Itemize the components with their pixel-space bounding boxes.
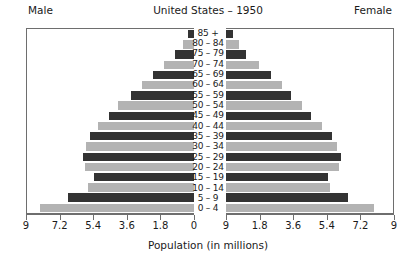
age-group-label: 60 – 64 [192, 80, 224, 89]
age-group-slot: 50 – 54 [194, 100, 222, 110]
age-group-slot: 80 – 84 [194, 38, 222, 48]
male-bar [83, 153, 194, 161]
male-x-tick-label: 9 [23, 220, 29, 232]
male-bar [142, 81, 194, 89]
male-bar-row [27, 70, 194, 80]
age-group-label: 10 – 14 [192, 184, 224, 193]
female-bar [226, 71, 271, 79]
female-bar [226, 183, 330, 191]
male-bar-row [27, 182, 194, 192]
male-bar [85, 163, 194, 171]
age-group-slot: 65 – 69 [194, 69, 222, 79]
age-group-slot: 85 + [194, 28, 222, 38]
female-bar [226, 153, 341, 161]
female-x-tick-label: 7.2 [352, 220, 368, 232]
female-bar-row [226, 141, 393, 151]
age-group-label: 30 – 34 [192, 142, 224, 151]
age-group-label: 35 – 39 [192, 132, 224, 141]
female-x-tick-label: 5.4 [319, 220, 335, 232]
age-group-label: 15 – 19 [192, 173, 224, 182]
age-group-axis: 85 +80 – 8475 – 7970 – 7465 – 6960 – 645… [194, 28, 222, 214]
female-bar-row [226, 101, 393, 111]
male-x-tick-label: 7.2 [52, 220, 68, 232]
female-bar-row [226, 70, 393, 80]
male-x-tick-label: 1.8 [152, 220, 168, 232]
male-bar [153, 71, 194, 79]
male-bar-row [27, 80, 194, 90]
female-bar-row [226, 29, 393, 39]
female-bar [226, 81, 282, 89]
age-group-slot: 35 – 39 [194, 131, 222, 141]
female-bar [226, 50, 246, 58]
age-group-slot: 55 – 59 [194, 90, 222, 100]
female-bar [226, 101, 302, 109]
female-bar [226, 193, 348, 201]
female-bar-row [226, 193, 393, 203]
female-plot-area [226, 28, 394, 214]
male-bar-row [27, 152, 194, 162]
age-group-label: 0 – 4 [198, 204, 219, 213]
female-bar-row [226, 111, 393, 121]
male-bar-row [27, 101, 194, 111]
female-x-tick-label: 1.8 [252, 220, 268, 232]
male-bar [109, 112, 194, 120]
male-bar-row [27, 203, 194, 213]
female-bar [226, 112, 311, 120]
female-bar-row [226, 80, 393, 90]
age-group-label: 20 – 24 [192, 163, 224, 172]
age-group-slot: 20 – 24 [194, 162, 222, 172]
male-bar [164, 61, 194, 69]
male-bar-row [27, 49, 194, 59]
female-x-tick-label: 9 [223, 220, 229, 232]
age-group-slot: 60 – 64 [194, 80, 222, 90]
age-group-slot: 40 – 44 [194, 121, 222, 131]
female-bar-row [226, 131, 393, 141]
male-bar [98, 122, 194, 130]
age-group-slot: 0 – 4 [194, 204, 222, 214]
age-group-slot: 10 – 14 [194, 183, 222, 193]
female-x-tick-labels: 91.83.65.47.29 [226, 220, 394, 234]
female-x-tick-label: 9 [391, 220, 397, 232]
female-bar-row [226, 39, 393, 49]
female-bar [226, 142, 337, 150]
male-bar-row [27, 172, 194, 182]
age-group-slot: 45 – 49 [194, 111, 222, 121]
female-bar [226, 61, 259, 69]
male-bar-row [27, 60, 194, 70]
age-group-slot: 15 – 19 [194, 173, 222, 183]
male-plot-area [26, 28, 194, 214]
age-group-slot: 30 – 34 [194, 142, 222, 152]
male-bar-row [27, 29, 194, 39]
male-bar [118, 101, 194, 109]
female-bar-row [226, 172, 393, 182]
age-group-label: 70 – 74 [192, 60, 224, 69]
male-bar-row [27, 39, 194, 49]
age-group-label: 50 – 54 [192, 101, 224, 110]
female-bar-row [226, 60, 393, 70]
male-bar [94, 173, 194, 181]
age-group-label: 80 – 84 [192, 39, 224, 48]
male-bar [40, 204, 194, 212]
age-group-slot: 5 – 9 [194, 193, 222, 203]
female-bar-row [226, 49, 393, 59]
male-bar-row [27, 111, 194, 121]
female-bar-row [226, 90, 393, 100]
female-bar [226, 91, 291, 99]
female-bar [226, 204, 374, 212]
male-bar-row [27, 131, 194, 141]
male-bar [131, 91, 194, 99]
female-bar [226, 40, 239, 48]
female-bar-row [226, 152, 393, 162]
age-group-label: 75 – 79 [192, 49, 224, 58]
age-group-label: 65 – 69 [192, 70, 224, 79]
female-legend-label: Female [354, 4, 392, 16]
female-bar-row [226, 121, 393, 131]
x-axis-title: Population (in millions) [0, 239, 416, 251]
male-bar [86, 142, 194, 150]
age-group-label: 85 + [197, 29, 218, 38]
male-bar-row [27, 193, 194, 203]
male-x-tick-label: 5.4 [85, 220, 101, 232]
female-bar-row [226, 203, 393, 213]
male-bar [88, 183, 194, 191]
female-x-tick-label: 3.6 [285, 220, 301, 232]
